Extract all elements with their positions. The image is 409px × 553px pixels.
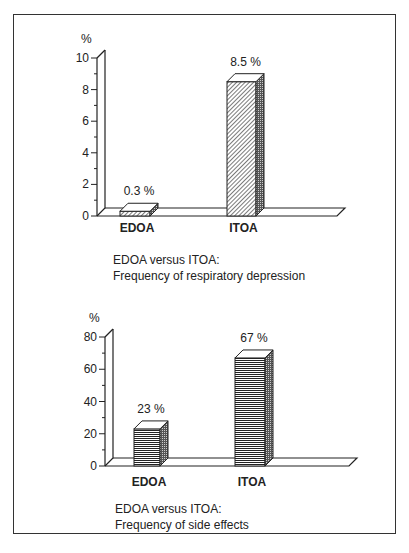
y-axis-wall [97, 50, 105, 216]
y-tick-label: 0 [90, 459, 97, 473]
chart-respiratory-depression: 0246810%0.3 %EDOA8.5 %ITOA [76, 32, 345, 235]
caption-respiratory-depression: EDOA versus ITOA: Frequency of respirato… [113, 252, 305, 284]
y-axis-unit: % [89, 311, 100, 325]
chart-side-effects: 020406080%23 %EDOA67 %ITOA [84, 311, 357, 489]
data-label: 0.3 % [124, 184, 155, 198]
data-label: 23 % [137, 402, 165, 416]
y-tick-label: 20 [84, 427, 98, 441]
category-label: ITOA [238, 475, 267, 489]
caption-line1: EDOA versus ITOA: [115, 501, 249, 517]
bar-itoa [235, 350, 273, 466]
y-tick-label: 2 [82, 177, 89, 191]
y-tick-label: 4 [82, 146, 89, 160]
y-axis-unit: % [81, 32, 92, 46]
y-tick-label: 60 [84, 362, 98, 376]
caption-side-effects: EDOA versus ITOA: Frequency of side effe… [115, 501, 249, 533]
y-tick-label: 0 [82, 209, 89, 223]
caption-line2: Frequency of respiratory depression [113, 268, 305, 284]
category-label: EDOA [132, 475, 167, 489]
y-tick-label: 80 [84, 330, 98, 344]
caption-line2: Frequency of side effects [115, 517, 249, 533]
bar-edoa [120, 203, 158, 216]
data-label: 67 % [240, 331, 268, 345]
category-label: EDOA [120, 221, 155, 235]
y-tick-label: 6 [82, 114, 89, 128]
bar-itoa [227, 74, 264, 216]
caption-line1: EDOA versus ITOA: [113, 252, 305, 268]
category-label: ITOA [229, 221, 258, 235]
y-tick-label: 10 [76, 51, 90, 65]
y-tick-label: 40 [84, 395, 98, 409]
y-axis-wall [105, 329, 113, 466]
data-label: 8.5 % [230, 55, 261, 69]
bar-edoa [134, 421, 168, 466]
y-tick-label: 8 [82, 83, 89, 97]
